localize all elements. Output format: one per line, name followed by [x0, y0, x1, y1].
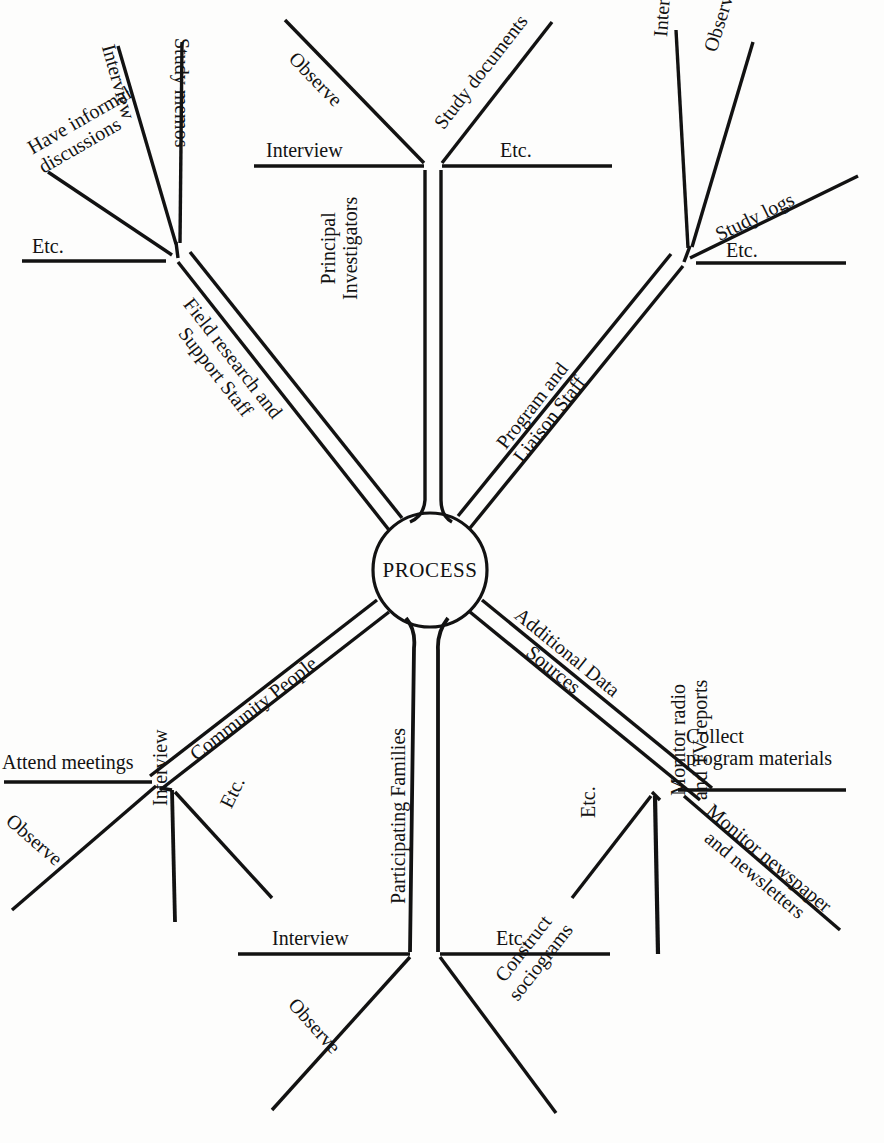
- twig-label-study-memos: Study memos: [170, 38, 192, 147]
- trunk-pi-right: [441, 170, 452, 522]
- trunk-label-principal-investigators: Principal Investigators: [318, 197, 361, 300]
- twig-etc-cp: [175, 792, 272, 898]
- twig-label-etc-pl: Etc.: [726, 240, 758, 262]
- twig-label-interview-pf: Interview: [272, 928, 349, 950]
- twig-interview-cp: [172, 790, 175, 922]
- diagram-canvas: PROCESS Etc. Have informal discussions I…: [0, 0, 884, 1143]
- twig-label-etc-pi: Etc.: [500, 140, 532, 162]
- twig-label-interview-cp: Interview: [150, 729, 172, 806]
- trunk-pf-right: [438, 618, 448, 952]
- twig-label-interview-pi: Interview: [266, 140, 343, 162]
- twig-monitor-radio-tv: [655, 796, 658, 954]
- twig-stem-pl: [684, 246, 690, 262]
- twig-label-attend-meetings: Attend meetings: [2, 752, 134, 774]
- twig-label-etc-fr: Etc.: [32, 236, 64, 258]
- trunk-label-participating-families: Participating Families: [388, 728, 410, 904]
- trunk-pi-left: [410, 170, 425, 522]
- twig-label-etc-ads: Etc.: [578, 786, 600, 818]
- twig-stem-fr: [176, 242, 178, 258]
- twig-observe-pf: [272, 957, 410, 1110]
- twig-interview-pl: [676, 30, 688, 248]
- twig-label-monitor-radio-tv: Monitor radio and TV reports: [668, 680, 711, 800]
- trunk-field-research-outer: [178, 262, 389, 530]
- twig-have-informal: [48, 172, 172, 255]
- process-center-label: PROCESS: [382, 558, 477, 583]
